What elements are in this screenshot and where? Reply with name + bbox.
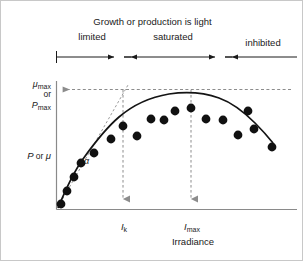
data-point: [202, 115, 211, 124]
y-axis-p-max: Pmax: [7, 100, 51, 111]
x-tick-label-ik: Ik: [111, 222, 137, 233]
data-point: [268, 143, 277, 152]
x-axis-title: Irradiance: [141, 237, 245, 248]
alpha-slope-label: α: [84, 156, 89, 166]
y-axis-conjunction: or: [33, 151, 45, 161]
region-label-limited: limited: [63, 32, 121, 43]
figure-container: Growth or production is light limited sa…: [0, 0, 303, 261]
data-point: [90, 149, 99, 158]
data-point: [70, 173, 79, 182]
region-span-limited: [57, 51, 115, 63]
y-axis-max-label: μmax or Pmax: [7, 79, 51, 111]
region-label-inhibited: inhibited: [229, 38, 297, 49]
y-axis-title: P or μ: [9, 151, 51, 162]
data-point: [160, 116, 169, 125]
data-point: [187, 104, 196, 113]
data-point: [171, 107, 180, 116]
data-point: [250, 125, 259, 134]
x-tick-label-imax: Imax: [173, 222, 211, 233]
pi-curve: [58, 93, 273, 208]
data-point: [107, 135, 116, 144]
data-point: [63, 187, 72, 196]
y-axis-or-text: or: [7, 90, 51, 100]
data-point: [57, 200, 66, 209]
data-point: [133, 132, 142, 141]
data-point: [234, 131, 243, 140]
data-points: [57, 104, 277, 209]
data-point: [119, 122, 128, 131]
data-point: [147, 115, 156, 124]
header-caption: Growth or production is light: [1, 17, 303, 28]
data-point: [219, 116, 228, 125]
data-point: [244, 107, 253, 116]
region-label-saturated: saturated: [127, 32, 219, 43]
